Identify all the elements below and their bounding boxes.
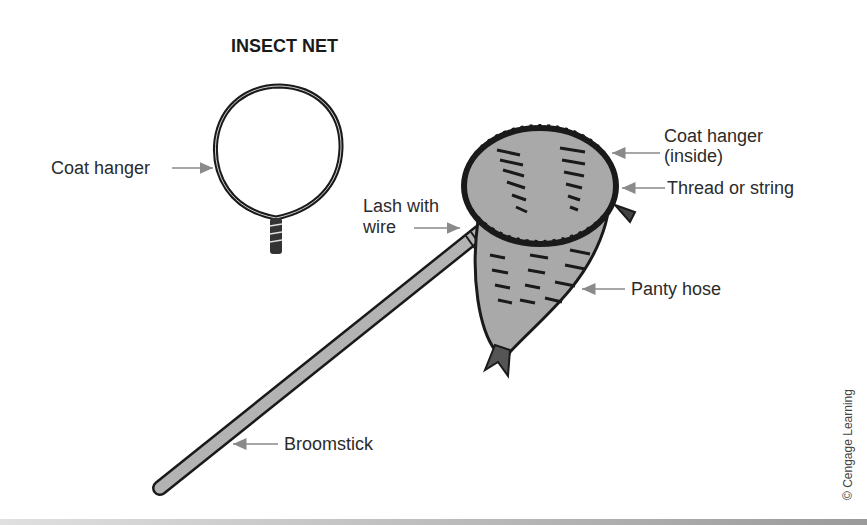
label-lash-with-2: wire xyxy=(363,217,396,237)
coat-hanger-loop-icon xyxy=(215,86,341,254)
label-broomstick: Broomstick xyxy=(284,434,373,454)
copyright-credit: © Cengage Learning xyxy=(841,389,855,500)
label-lash-with-1: Lash with xyxy=(363,196,439,216)
label-coat-hanger: Coat hanger xyxy=(51,158,150,178)
label-coat-hanger-inside-1: Coat hanger xyxy=(664,126,763,146)
label-coat-hanger-inside-2: (inside) xyxy=(664,146,723,166)
insect-net-diagram: INSECT NET Coat hanger Coat hanger (insi… xyxy=(0,0,867,525)
bottom-divider xyxy=(0,519,867,525)
diagram-illustration xyxy=(0,0,867,525)
label-thread-or-string: Thread or string xyxy=(667,178,794,198)
label-panty-hose: Panty hose xyxy=(631,279,721,299)
net-bag-icon xyxy=(464,125,635,376)
diagram-title: INSECT NET xyxy=(231,36,338,57)
